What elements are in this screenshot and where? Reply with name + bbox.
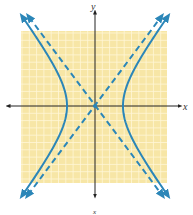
hyperbola-chart: x y x (0, 0, 193, 215)
bottom-label: x (92, 208, 97, 215)
origin-point (93, 104, 97, 108)
y-axis-label: y (90, 1, 96, 12)
x-axis-label: x (182, 101, 188, 112)
